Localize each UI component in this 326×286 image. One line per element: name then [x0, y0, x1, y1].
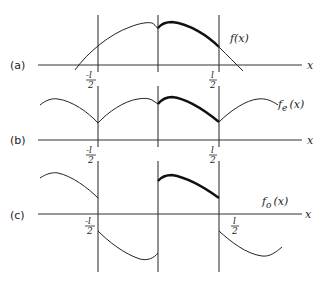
svg-text:2: 2	[87, 155, 94, 165]
panel-c: (c) x fo(x) -l 2 l 2	[10, 173, 312, 260]
x-axis-label-a: x	[307, 59, 314, 72]
function-label-a: f(x)	[229, 32, 249, 45]
tick-pos-half-c: l 2	[231, 216, 239, 236]
tick-neg-half-a: -l 2	[86, 70, 96, 90]
panel-a: (a) x f(x) -l 2 l 2	[10, 22, 314, 90]
tick-pos-half-a: l 2	[209, 70, 217, 90]
tick-neg-half-b: -l 2	[86, 145, 96, 165]
svg-text:-l: -l	[86, 70, 92, 80]
svg-text:l: l	[233, 216, 236, 226]
svg-text:-l: -l	[85, 216, 91, 226]
panel-label-b: (b)	[10, 134, 26, 147]
svg-text:2: 2	[209, 80, 216, 90]
svg-text:l: l	[211, 70, 214, 80]
svg-text:2: 2	[231, 226, 238, 236]
svg-text:2: 2	[209, 155, 216, 165]
svg-text:-l: -l	[86, 145, 92, 155]
function-label-b: fe(x)	[277, 98, 304, 113]
curve-fo-main	[158, 175, 219, 198]
svg-text:l: l	[211, 145, 214, 155]
tick-neg-half-c: -l 2	[85, 216, 95, 236]
x-axis-label-c: x	[305, 208, 312, 221]
svg-text:2: 2	[86, 226, 93, 236]
x-axis-label-b: x	[307, 134, 314, 147]
function-extension-diagram: (a) x f(x) -l 2 l 2 (b) x	[0, 0, 326, 286]
tick-pos-half-b: l 2	[209, 145, 217, 165]
curve-f-left	[75, 23, 158, 70]
svg-text:2: 2	[87, 80, 94, 90]
curve-fo-seg2	[98, 231, 158, 260]
curve-fe-main	[158, 97, 219, 122]
curve-fe-seg4	[219, 99, 278, 122]
panel-label-a: (a)	[10, 59, 25, 72]
panel-label-c: (c)	[10, 209, 25, 222]
curve-f-right	[219, 47, 243, 71]
curve-f-main	[158, 22, 219, 47]
panel-b: (b) x fe(x) -l 2 l 2	[10, 97, 314, 165]
curve-fe-seg2	[98, 98, 158, 123]
curve-fe-seg1	[40, 99, 98, 123]
vertical-lines	[98, 15, 219, 272]
curve-fo-seg1	[40, 173, 98, 198]
function-label-c: fo(x)	[261, 195, 288, 210]
curve-fo-seg4	[219, 231, 282, 256]
